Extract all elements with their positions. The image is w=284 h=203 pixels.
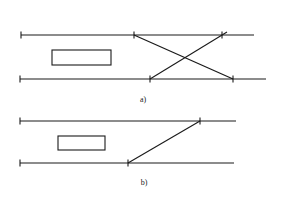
panel-label: a) (140, 95, 147, 104)
panel-b-single-crossover: b) (20, 118, 236, 188)
crossover-line (134, 35, 233, 79)
panel-label: b) (141, 178, 148, 187)
panel-a-scissors-crossover: a) (20, 32, 266, 105)
platform-building (52, 50, 111, 65)
crossover-line (150, 32, 227, 79)
platform-building (58, 136, 105, 150)
track-diagram: a) b) (0, 0, 284, 203)
crossover-line (128, 121, 200, 163)
